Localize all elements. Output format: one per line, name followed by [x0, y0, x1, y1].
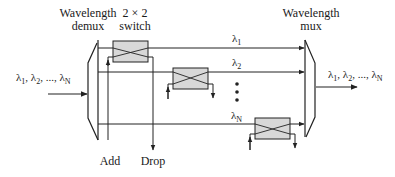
channel-2-label: λ2	[232, 56, 241, 71]
input-label: λ1, λ2, ..., λN	[16, 71, 71, 86]
switch-n	[255, 118, 290, 139]
demux-label-line2: demux	[72, 19, 105, 33]
switch-1	[113, 41, 148, 62]
mux-label-line1: Wavelength	[282, 6, 339, 20]
ellipsis-dots	[235, 82, 239, 102]
mux-label-line2: mux	[300, 19, 321, 33]
switch-2-drop	[208, 84, 213, 98]
mux-block	[305, 40, 315, 137]
switch-label-line2: switch	[119, 19, 150, 33]
demux-block	[88, 40, 98, 140]
channel-n-label: λN	[231, 109, 242, 124]
add-line	[108, 57, 113, 140]
switch-2-add	[168, 84, 173, 99]
switch-label-line1: 2 × 2	[123, 6, 148, 20]
switch-n-drop	[290, 134, 295, 148]
oadm-diagram: Wavelength demux 2 × 2 switch Wavelength…	[0, 0, 395, 177]
output-label: λ1, λ2, ..., λN	[328, 68, 383, 83]
drop-label: Drop	[141, 154, 166, 168]
add-label: Add	[100, 154, 121, 168]
switch-2	[173, 68, 208, 89]
drop-line	[148, 57, 153, 150]
switch-n-add	[250, 134, 255, 150]
demux-label-line1: Wavelength	[59, 6, 116, 20]
channel-1-label: λ1	[232, 32, 241, 47]
